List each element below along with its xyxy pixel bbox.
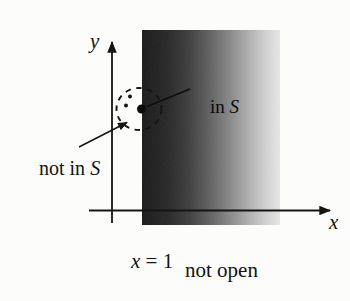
boundary-equation-variable: x <box>131 249 140 273</box>
boundary-point-dot <box>137 105 146 114</box>
not-in-s-label-text: not in <box>39 157 90 179</box>
x-axis-label: x <box>329 212 338 233</box>
not-in-s-label: not in S <box>19 138 100 198</box>
figure-caption: not open <box>185 260 258 281</box>
boundary-equation-label: x = 1 <box>110 230 173 293</box>
y-axis-label: y <box>90 31 99 52</box>
not-open-set-figure: y x in S not in S x = 1 not open <box>0 0 350 301</box>
in-s-label-text: in <box>210 96 230 117</box>
outside-point-dot-lower <box>124 104 128 108</box>
in-s-label: in S <box>191 78 239 135</box>
in-s-set-symbol: S <box>230 96 240 117</box>
not-in-s-set-symbol: S <box>90 157 100 179</box>
outside-point-dot-upper <box>128 95 132 99</box>
boundary-equation-value: = 1 <box>140 249 173 273</box>
